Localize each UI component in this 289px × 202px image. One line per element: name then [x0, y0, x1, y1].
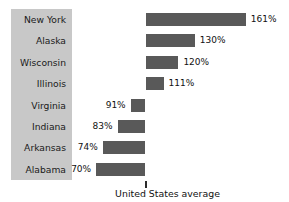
chart-row: Virginia91% — [0, 95, 289, 116]
bar-value-label: 111% — [169, 73, 195, 94]
state-label: Indiana — [0, 116, 66, 137]
chart-row: Illinois111% — [0, 73, 289, 94]
bar-value-label: 74% — [69, 137, 98, 158]
bar — [103, 141, 146, 154]
bar-value-label: 91% — [97, 95, 126, 116]
bar-value-label: 83% — [84, 116, 113, 137]
chart-row: Indiana83% — [0, 116, 289, 137]
bar-value-label: 70% — [62, 159, 91, 180]
bar — [146, 77, 164, 90]
bar-value-label: 120% — [183, 52, 209, 73]
bar — [96, 163, 145, 176]
chart-row: Alaska130% — [0, 30, 289, 51]
plot-area: New York161%Alaska130%Wisconsin120%Illin… — [0, 9, 289, 180]
bar — [146, 34, 195, 47]
chart-row: Alabama70% — [0, 159, 289, 180]
state-label: Alabama — [0, 159, 66, 180]
state-label: Arkansas — [0, 137, 66, 158]
bar-value-label: 130% — [200, 30, 226, 51]
bar — [146, 56, 179, 69]
bar — [131, 99, 146, 112]
baseline-tick-mark — [145, 181, 147, 188]
bar — [118, 120, 146, 133]
state-label: Alaska — [0, 30, 66, 51]
state-label: Wisconsin — [0, 52, 66, 73]
bar-chart: New York161%Alaska130%Wisconsin120%Illin… — [0, 0, 289, 202]
state-label: Virginia — [0, 95, 66, 116]
state-label: Illinois — [0, 73, 66, 94]
baseline-caption-text: United States average — [115, 188, 220, 199]
chart-row: Arkansas74% — [0, 137, 289, 158]
bar — [146, 13, 246, 26]
bar-value-label: 161% — [251, 9, 277, 30]
baseline-caption: United States average — [0, 188, 289, 199]
chart-row: New York161% — [0, 9, 289, 30]
state-label: New York — [0, 9, 66, 30]
chart-row: Wisconsin120% — [0, 52, 289, 73]
